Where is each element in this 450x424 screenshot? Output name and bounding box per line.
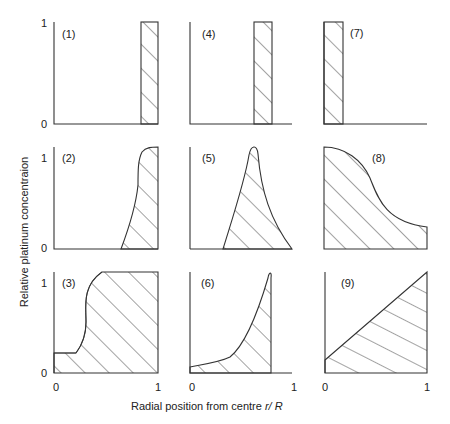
xtick-col2-left: 0 — [189, 381, 195, 393]
panel-label-6: (6) — [201, 277, 214, 289]
panel-label-9: (9) — [341, 277, 354, 289]
ytick-row2-bottom: 0 — [41, 242, 47, 254]
xtick-col3-right: 1 — [424, 381, 430, 393]
panel-label-3: (3) — [62, 277, 75, 289]
ytick-row1-bottom: 0 — [41, 118, 47, 130]
y-axis-label: Relative platinum concentraion — [18, 157, 30, 307]
xtick-col1-right: 1 — [155, 381, 161, 393]
panel-label-2: (2) — [62, 152, 75, 164]
panel-label-1: (1) — [62, 28, 75, 40]
panel-label-4: (4) — [202, 28, 215, 40]
ytick-row1-top: 1 — [41, 17, 47, 29]
panel-label-7: (7) — [350, 27, 363, 39]
xtick-col3-left: 0 — [322, 381, 328, 393]
ytick-row2-top: 1 — [41, 152, 47, 164]
ytick-row3-bottom: 0 — [41, 367, 47, 379]
x-axis-label-text: Radial position from centre — [131, 400, 265, 412]
xtick-col2-right: 1 — [291, 381, 297, 393]
panel-label-5: (5) — [202, 152, 215, 164]
x-axis-label-variable: r/ R — [265, 400, 283, 412]
x-axis-label: Radial position from centre r/ R — [131, 400, 283, 412]
figure-canvas: Relative platinum concentraion 1 0 1 0 1… — [0, 0, 450, 424]
ytick-row3-top: 1 — [41, 277, 47, 289]
panel-label-8: (8) — [372, 152, 385, 164]
xtick-col1-left: 0 — [53, 381, 59, 393]
panel-7 — [324, 22, 427, 124]
